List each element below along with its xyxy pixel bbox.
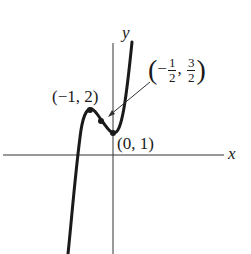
x-fraction: 12	[168, 56, 177, 84]
open-paren: (	[148, 54, 157, 85]
y-fraction: 32	[187, 56, 196, 84]
x-axis-label: x	[228, 145, 236, 162]
min-point-marker	[110, 130, 116, 136]
inflection-point-label: (−12, 32)	[148, 56, 206, 84]
comma: ,	[177, 59, 181, 78]
close-paren: )	[196, 54, 205, 85]
x-numerator: 1	[168, 56, 177, 71]
y-axis-label: y	[122, 24, 130, 41]
min-point-label: (0, 1)	[117, 135, 154, 152]
x-denominator: 2	[169, 71, 176, 85]
inflection-leader-line	[110, 82, 150, 115]
inflection-point-marker	[98, 118, 104, 124]
leader-arrowhead	[108, 110, 115, 117]
y-denominator: 2	[188, 71, 195, 85]
y-numerator: 3	[187, 56, 196, 71]
max-point-marker	[87, 107, 93, 113]
minus-sign: −	[157, 59, 167, 78]
max-point-label: (−1, 2)	[52, 88, 98, 105]
